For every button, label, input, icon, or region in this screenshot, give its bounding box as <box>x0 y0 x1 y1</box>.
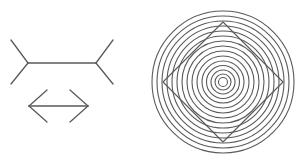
illusion-figure-canvas <box>0 0 301 164</box>
